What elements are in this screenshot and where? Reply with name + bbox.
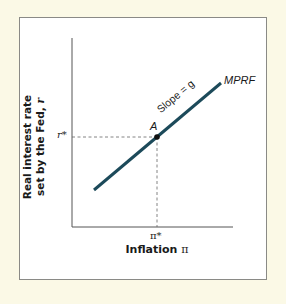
x-axis-label: Inflation π: [126, 243, 189, 256]
point-a-label: A: [150, 120, 157, 132]
mprf-label: MPRF: [224, 74, 255, 86]
point-a-marker: [154, 134, 160, 140]
r-star-tick: r*: [57, 129, 67, 140]
pi-star-tick: π*: [150, 230, 162, 241]
y-axis-label: Real interest rate set by the Fed, r: [21, 95, 47, 199]
